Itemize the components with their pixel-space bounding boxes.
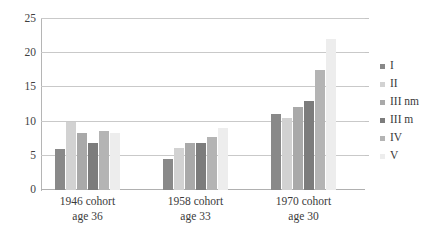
y-tick-label-20: 20 <box>0 47 36 59</box>
bar <box>110 133 120 190</box>
bar <box>77 133 87 190</box>
legend-item-iii-m[interactable]: III m <box>380 111 444 129</box>
y-tick-label-10: 10 <box>0 116 36 128</box>
legend-label: II <box>390 78 398 90</box>
legend-label: III nm <box>390 96 419 108</box>
bar <box>174 148 184 190</box>
bar-group-bars <box>271 19 337 190</box>
bar-chart: 0510152025 1946 cohortage 361958 cohorta… <box>0 0 445 233</box>
bar <box>88 143 98 190</box>
category-label-line2: age 30 <box>254 209 354 224</box>
legend: IIIIII nmIII mIVV <box>380 57 444 165</box>
right-tick-25 <box>365 18 369 19</box>
bar <box>55 149 65 190</box>
category-label-line1: 1946 cohort <box>60 195 115 207</box>
bar <box>185 143 195 190</box>
category-label: 1958 cohortage 33 <box>146 194 246 223</box>
bar-group-bars <box>55 19 121 190</box>
legend-item-i[interactable]: I <box>380 57 444 75</box>
legend-swatch-icon <box>380 82 385 87</box>
y-tick-label-0: 0 <box>0 184 36 196</box>
legend-item-iv[interactable]: IV <box>380 129 444 147</box>
category-label-line1: 1958 cohort <box>168 195 223 207</box>
right-tick-10 <box>365 121 369 122</box>
bar <box>293 107 303 190</box>
legend-label: V <box>390 150 398 162</box>
legend-item-iii-nm[interactable]: III nm <box>380 93 444 111</box>
bar <box>163 159 173 190</box>
right-tick-15 <box>365 86 369 87</box>
bar <box>207 137 217 190</box>
bar-group <box>55 19 120 190</box>
right-tick-20 <box>365 52 369 53</box>
bar <box>271 114 281 190</box>
legend-label: I <box>390 60 394 72</box>
bar <box>196 143 206 190</box>
bar-group-bars <box>163 19 229 190</box>
legend-item-v[interactable]: V <box>380 147 444 165</box>
bar <box>326 39 336 190</box>
right-tick-5 <box>365 155 369 156</box>
category-label-line1: 1970 cohort <box>276 195 331 207</box>
category-label: 1946 cohortage 36 <box>38 194 138 223</box>
legend-swatch-icon <box>380 118 385 123</box>
legend-swatch-icon <box>380 64 385 69</box>
bar-group <box>271 19 336 190</box>
plot-area <box>41 19 365 190</box>
y-tick-label-5: 5 <box>0 150 36 162</box>
bar <box>282 118 292 191</box>
y-tick-label-15: 15 <box>0 81 36 93</box>
legend-label: IV <box>390 132 402 144</box>
y-tick-label-25: 25 <box>0 13 36 25</box>
bar <box>218 128 228 190</box>
category-label-line2: age 36 <box>38 209 138 224</box>
category-label-line2: age 33 <box>146 209 246 224</box>
category-label: 1970 cohortage 30 <box>254 194 354 223</box>
legend-swatch-icon <box>380 100 385 105</box>
legend-swatch-icon <box>380 154 385 159</box>
bar <box>304 101 314 190</box>
bar <box>315 70 325 190</box>
legend-swatch-icon <box>380 136 385 141</box>
bar <box>99 131 109 191</box>
legend-label: III m <box>390 114 413 126</box>
bar <box>66 122 76 190</box>
bar-group <box>163 19 228 190</box>
legend-item-ii[interactable]: II <box>380 75 444 93</box>
